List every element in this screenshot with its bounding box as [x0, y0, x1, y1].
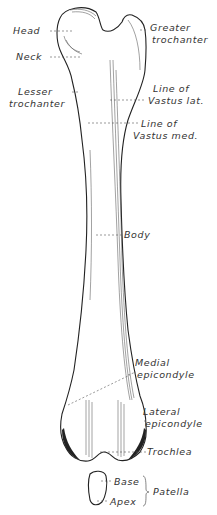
label-base: Base [114, 476, 140, 487]
label-neck: Neck [16, 51, 42, 62]
label-line-vastus-lat-line1: Line of [153, 83, 189, 94]
label-body: Body [124, 229, 150, 240]
label-lateral-epicondyle-line2: epicondyle [145, 418, 203, 429]
label-lesser-trochanter-line1: Lesser [18, 86, 52, 97]
label-apex: Apex [110, 496, 136, 507]
label-line-vastus-lat-line2: Vastus lat. [148, 95, 204, 106]
label-line-vastus-med-line1: Line of [141, 118, 177, 129]
label-line-vastus-med-line2: Vastus med. [133, 130, 198, 141]
label-trochlea: Trochlea [147, 446, 192, 457]
femur-diagram [0, 0, 217, 515]
label-lateral-epicondyle-line1: Lateral [143, 406, 180, 417]
label-head: Head [13, 25, 40, 36]
label-greater-trochanter-line1: Greater [150, 22, 191, 33]
patella-bone [89, 471, 107, 505]
label-medial-epicondyle-line1: Medial [135, 357, 170, 368]
label-lesser-trochanter-line2: trochanter [9, 98, 65, 109]
label-patella: Patella [153, 486, 189, 497]
label-medial-epicondyle-line2: epicondyle [137, 369, 195, 380]
label-greater-trochanter-line2: trochanter [152, 34, 208, 45]
